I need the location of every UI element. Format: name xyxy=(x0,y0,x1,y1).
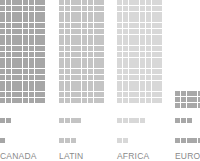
unit-square xyxy=(82,29,87,34)
unit-square xyxy=(40,92,45,97)
unit-square xyxy=(157,75,162,80)
unit-square xyxy=(65,69,70,74)
unit-square xyxy=(146,35,151,40)
unit-square xyxy=(76,86,81,91)
unit-square xyxy=(6,12,11,17)
unit-square xyxy=(140,0,145,5)
unit-square xyxy=(117,35,122,40)
unit-square xyxy=(40,58,45,63)
unit-square xyxy=(6,23,11,28)
unit-square xyxy=(23,0,28,5)
unit-square xyxy=(35,58,40,63)
unit-square xyxy=(65,17,70,22)
unit-square xyxy=(140,12,145,17)
unit-square xyxy=(17,29,22,34)
unit-square xyxy=(123,0,128,5)
unit-square xyxy=(82,40,87,45)
unit-square xyxy=(40,6,45,11)
unit-square xyxy=(152,17,157,22)
unit-square xyxy=(94,52,99,57)
unit-square xyxy=(0,69,5,74)
unit-square xyxy=(94,98,99,103)
unit-square xyxy=(192,91,197,96)
unit-square xyxy=(152,81,157,86)
unit-square xyxy=(157,98,162,103)
unit-square xyxy=(23,23,28,28)
unit-square xyxy=(140,40,145,45)
unit-square xyxy=(12,58,17,63)
column-europ: EUROP xyxy=(175,0,200,161)
unit-square xyxy=(129,6,134,11)
unit-square xyxy=(140,6,145,11)
category-label: AFRICA xyxy=(117,151,149,161)
unit-square xyxy=(71,12,76,17)
unit-square xyxy=(152,98,157,103)
unit-square xyxy=(82,35,87,40)
unit-square xyxy=(129,118,134,123)
unit-square xyxy=(146,81,151,86)
unit-square xyxy=(59,12,64,17)
unit-square xyxy=(146,23,151,28)
unit-square xyxy=(187,138,192,143)
unit-square xyxy=(181,138,186,143)
unit-square xyxy=(175,91,180,96)
unit-square xyxy=(129,69,134,74)
unit-square xyxy=(88,12,93,17)
unit-square xyxy=(35,63,40,68)
unit-square xyxy=(76,46,81,51)
unit-square xyxy=(146,86,151,91)
unit-square xyxy=(6,46,11,51)
unit-square xyxy=(198,103,200,108)
unit-square xyxy=(140,118,145,123)
unit-square xyxy=(134,52,139,57)
unit-square xyxy=(88,58,93,63)
unit-square xyxy=(82,0,87,5)
unit-square xyxy=(117,86,122,91)
unit-square xyxy=(129,46,134,51)
unit-square xyxy=(35,40,40,45)
unit-square xyxy=(59,52,64,57)
unit-square xyxy=(71,35,76,40)
unit-square xyxy=(94,81,99,86)
unit-square xyxy=(59,6,64,11)
unit-square xyxy=(152,46,157,51)
unit-square xyxy=(17,23,22,28)
unit-square xyxy=(94,17,99,22)
unit-square xyxy=(88,63,93,68)
unit-square xyxy=(29,23,34,28)
unit-square xyxy=(82,63,87,68)
unit-square xyxy=(117,75,122,80)
unit-square xyxy=(35,29,40,34)
unit-square xyxy=(94,6,99,11)
unit-square xyxy=(17,92,22,97)
unit-square xyxy=(59,46,64,51)
unit-square xyxy=(117,46,122,51)
unit-square xyxy=(140,29,145,34)
unit-square xyxy=(71,17,76,22)
unit-square xyxy=(17,0,22,5)
unit-square xyxy=(123,35,128,40)
unit-square xyxy=(65,6,70,11)
unit-square xyxy=(29,75,34,80)
unit-square xyxy=(175,103,180,108)
unit-square xyxy=(152,63,157,68)
unit-square xyxy=(65,46,70,51)
unit-square xyxy=(59,86,64,91)
waffle-block-main xyxy=(0,0,45,103)
unit-square xyxy=(65,12,70,17)
unit-square xyxy=(192,97,197,102)
unit-square xyxy=(71,6,76,11)
unit-square xyxy=(117,40,122,45)
unit-square xyxy=(152,35,157,40)
category-label: LATIN xyxy=(59,151,83,161)
unit-square xyxy=(29,46,34,51)
unit-square xyxy=(65,35,70,40)
unit-square xyxy=(117,52,122,57)
unit-square xyxy=(71,46,76,51)
unit-square xyxy=(198,91,200,96)
unit-square xyxy=(35,98,40,103)
unit-square xyxy=(59,98,64,103)
waffle-block-low xyxy=(0,138,45,143)
unit-square xyxy=(12,86,17,91)
unit-square xyxy=(0,23,5,28)
